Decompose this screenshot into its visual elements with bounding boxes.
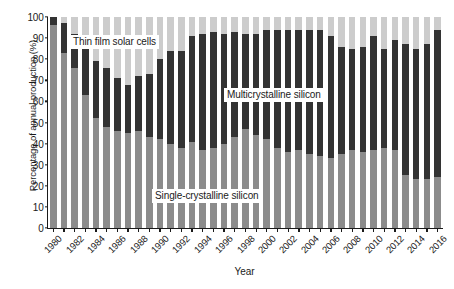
x-axis-tick-mark [277, 228, 278, 232]
bar-column [357, 17, 368, 228]
x-axis-tick-label: 2016 [426, 233, 448, 255]
x-axis-tick-label: 1992 [170, 233, 192, 255]
bar-segment [103, 68, 110, 127]
bar-segment [135, 76, 142, 131]
x-axis-tick-mark [405, 228, 406, 232]
bar-segment [402, 44, 409, 175]
bar-segment [146, 137, 153, 228]
bar-segment [93, 61, 100, 118]
bar-column [432, 17, 443, 228]
bar-segment [392, 40, 399, 150]
stacked-bar [71, 17, 78, 228]
bar-segment [392, 17, 399, 40]
bar-column [315, 17, 326, 228]
bar-column [112, 17, 123, 228]
bar-segment [167, 144, 174, 228]
bar-segment [360, 152, 367, 228]
bar-column [422, 17, 433, 228]
bar-segment [189, 142, 196, 229]
bar-segment [114, 131, 121, 228]
x-axis-tick-mark [85, 228, 86, 232]
bar-segment [295, 150, 302, 228]
stacked-bar [61, 17, 68, 228]
stacked-bar [82, 17, 89, 228]
bar-segment [285, 17, 292, 30]
stacked-bar [50, 17, 57, 228]
x-axis-tick-label: 1994 [191, 233, 213, 255]
x-axis-tick-label: 2014 [405, 233, 427, 255]
x-axis-tick-mark [266, 228, 267, 232]
annotation-single-crystalline: Single-crystalline silicon [152, 189, 262, 203]
x-axis-tick-mark [352, 228, 353, 232]
x-axis-tick-label: 1998 [234, 233, 256, 255]
bar-column [390, 17, 401, 228]
bar-segment [125, 133, 132, 228]
bar-segment [125, 85, 132, 134]
x-axis-tick-mark [234, 228, 235, 232]
bar-column [123, 17, 134, 228]
x-axis-tick-mark [223, 228, 224, 232]
bar-segment [274, 148, 281, 228]
annotation-thin-film: Thin film solar cells [70, 35, 159, 49]
x-axis-tick-mark [74, 228, 75, 232]
x-axis-tick-label: 2004 [298, 233, 320, 255]
bar-segment [360, 17, 367, 47]
bar-column [261, 17, 272, 228]
x-axis-tick-label: 1988 [127, 233, 149, 255]
bar-segment [434, 30, 441, 178]
bar-column [347, 17, 358, 228]
bar-segment [178, 17, 185, 51]
bar-column [336, 17, 347, 228]
x-axis-tick-mark [394, 228, 395, 232]
bar-column [304, 17, 315, 228]
bar-column [80, 17, 91, 228]
stacked-bar [125, 17, 132, 228]
bar-segment [360, 47, 367, 153]
bar-segment [210, 17, 217, 32]
stacked-bar [317, 17, 324, 228]
bar-segment [263, 30, 270, 140]
bar-segment [413, 17, 420, 49]
bar-segment [242, 129, 249, 228]
x-axis-tick-mark [320, 228, 321, 232]
bar-segment [424, 179, 431, 228]
bar-segment [71, 17, 78, 34]
x-axis-tick-mark [384, 228, 385, 232]
bar-segment [189, 17, 196, 36]
x-axis-tick-mark [362, 228, 363, 232]
bar-segment [178, 51, 185, 148]
x-axis-tick-mark [170, 228, 171, 232]
bar-segment [210, 148, 217, 228]
bar-column [101, 17, 112, 228]
stacked-bar [434, 17, 441, 228]
x-axis-tick-label: 1984 [85, 233, 107, 255]
x-axis-tick-mark [309, 228, 310, 232]
bar-segment [338, 154, 345, 228]
x-axis-tick-label: 2006 [320, 233, 342, 255]
bar-segment [82, 44, 89, 95]
bar-segment [328, 36, 335, 158]
bar-segment [295, 17, 302, 30]
bar-segment [434, 17, 441, 30]
bar-column [411, 17, 422, 228]
bar-segment [349, 150, 356, 228]
bar-segment [114, 78, 121, 131]
x-axis-tick-mark [191, 228, 192, 232]
bar-segment [349, 17, 356, 49]
stacked-bar [360, 17, 367, 228]
bar-segment [157, 59, 164, 139]
x-axis-tick-label: 2012 [384, 233, 406, 255]
stacked-bar [263, 17, 270, 228]
bar-segment [274, 17, 281, 30]
x-axis-tick-label: 1986 [106, 233, 128, 255]
bar-segment [370, 36, 377, 150]
bar-segment [50, 17, 57, 25]
chart-figure: Percentage of annual production (%) 0102… [0, 0, 454, 289]
stacked-bar [285, 17, 292, 228]
stacked-bar [135, 17, 142, 228]
stacked-bar [306, 17, 313, 228]
bar-segment [242, 34, 249, 129]
bar-segment [189, 36, 196, 142]
bar-segment [328, 158, 335, 228]
bar-segment [402, 175, 409, 228]
